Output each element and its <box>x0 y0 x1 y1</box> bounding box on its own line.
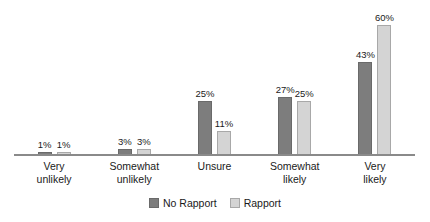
bar[interactable] <box>297 101 311 155</box>
bar-wrapper: 1% <box>57 8 71 155</box>
bar-wrapper: 60% <box>377 8 391 155</box>
legend-swatch-icon-rapport <box>230 198 240 208</box>
bar[interactable] <box>377 25 391 155</box>
bar-value-label: 25% <box>295 88 314 99</box>
bar-value-label: 27% <box>276 84 295 95</box>
legend-label-rapport: Rapport <box>244 197 281 209</box>
category-label-line: unlikely <box>94 173 174 186</box>
bar-value-label: 1% <box>57 139 71 150</box>
bar-group: 3%3% <box>94 8 174 155</box>
bar[interactable] <box>217 131 231 155</box>
category-label: Somewhatunlikely <box>94 160 174 185</box>
category-label-line: Somewhat <box>255 160 335 173</box>
bar-value-label: 3% <box>137 136 151 147</box>
bar-wrapper: 11% <box>217 8 231 155</box>
bar-wrapper: 3% <box>118 8 132 155</box>
bar-group: 43%60% <box>335 8 415 155</box>
category-label-line: likely <box>255 173 335 186</box>
bar-group-bars: 3%3% <box>94 8 174 155</box>
bar-group-bars: 25%11% <box>174 8 254 155</box>
bar-group: 27%25% <box>255 8 335 155</box>
category-label-line: unlikely <box>14 173 94 186</box>
category-label-line: Unsure <box>174 160 254 173</box>
bar-value-label: 11% <box>215 118 233 129</box>
plot-area: 1%1%3%3%25%11%27%25%43%60% <box>14 8 415 155</box>
category-label: Verylikely <box>335 160 415 185</box>
bar[interactable] <box>358 62 372 155</box>
chart-legend: No Rapport Rapport <box>0 197 430 209</box>
legend-label-no-rapport: No Rapport <box>163 197 217 209</box>
category-axis-labels: VeryunlikelySomewhatunlikelyUnsureSomewh… <box>14 160 415 194</box>
bar-group: 25%11% <box>174 8 254 155</box>
category-label-line: Somewhat <box>94 160 174 173</box>
bar-value-label: 1% <box>38 139 52 150</box>
bar-group-bars: 43%60% <box>335 8 415 155</box>
category-label-line: Very <box>14 160 94 173</box>
bar-value-label: 25% <box>195 88 214 99</box>
bar-wrapper: 25% <box>297 8 311 155</box>
bar-value-label: 43% <box>356 49 375 60</box>
bar-group-bars: 27%25% <box>255 8 335 155</box>
legend-swatch-icon-no-rapport <box>149 198 159 208</box>
bar-group-bars: 1%1% <box>14 8 94 155</box>
category-label-line: likely <box>335 173 415 186</box>
legend-item-no-rapport[interactable]: No Rapport <box>149 197 217 209</box>
category-label: Unsure <box>174 160 254 173</box>
category-label-line: Very <box>335 160 415 173</box>
bar-value-label: 60% <box>375 12 394 23</box>
bar-wrapper: 43% <box>358 8 372 155</box>
grouped-bar-chart: 1%1%3%3%25%11%27%25%43%60% VeryunlikelyS… <box>0 0 430 222</box>
bar[interactable] <box>198 101 212 155</box>
bar-wrapper: 27% <box>278 8 292 155</box>
bar-group: 1%1% <box>14 8 94 155</box>
category-label: Somewhatlikely <box>255 160 335 185</box>
bar-wrapper: 1% <box>38 8 52 155</box>
legend-item-rapport[interactable]: Rapport <box>230 197 281 209</box>
bar-wrapper: 3% <box>137 8 151 155</box>
category-label: Veryunlikely <box>14 160 94 185</box>
bar-value-label: 3% <box>118 136 132 147</box>
bar-wrapper: 25% <box>198 8 212 155</box>
bar[interactable] <box>278 97 292 156</box>
x-axis-line <box>14 154 415 156</box>
